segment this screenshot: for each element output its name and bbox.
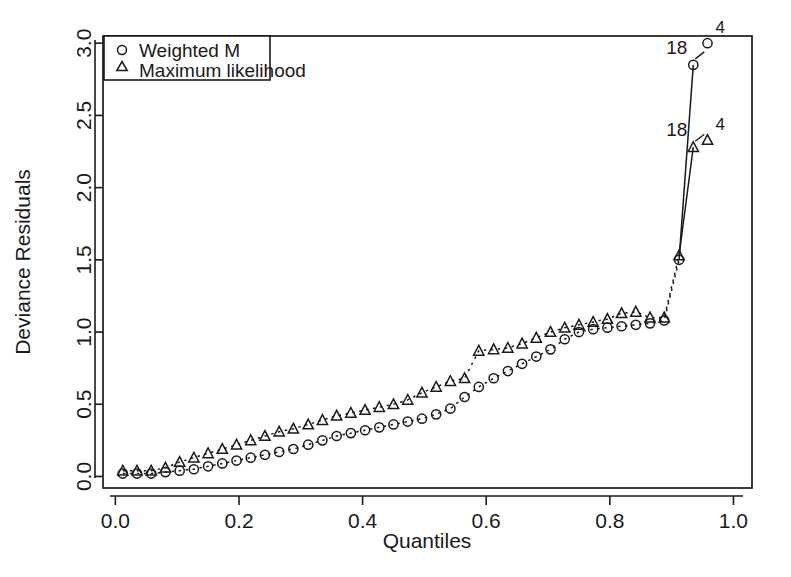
point-label-4: 4: [716, 18, 725, 37]
y-tick-label: 3.0: [72, 29, 95, 58]
point-label-4: 4: [716, 115, 725, 134]
chart-background: [0, 0, 791, 577]
legend-label-0: Weighted M: [139, 40, 240, 61]
deviance-residuals-chart: 0.00.51.01.52.02.53.0 0.00.20.40.60.81.0…: [0, 0, 791, 577]
x-tick-label: 1.0: [719, 509, 748, 532]
x-tick-label: 0.6: [472, 509, 501, 532]
y-tick-label: 2.0: [72, 173, 95, 202]
y-tick-label: 2.5: [72, 101, 95, 130]
chart-page: 0.00.51.01.52.02.53.0 0.00.20.40.60.81.0…: [0, 0, 791, 577]
y-tick-label: 0.0: [72, 462, 95, 491]
point-label-18: 18: [666, 37, 687, 58]
x-tick-label: 0.4: [348, 509, 378, 532]
y-axis-title: Deviance Residuals: [11, 169, 34, 355]
x-axis-title: Quantiles: [383, 529, 472, 552]
x-tick-label: 0.0: [101, 509, 130, 532]
y-tick-label: 1.0: [72, 317, 95, 346]
y-tick-label: 1.5: [72, 245, 95, 274]
x-tick-label: 0.8: [595, 509, 624, 532]
point-label-18: 18: [666, 119, 687, 140]
x-tick-label: 0.2: [224, 509, 253, 532]
y-tick-label: 0.5: [72, 390, 95, 419]
legend-label-1: Maximum likelihood: [139, 60, 306, 81]
